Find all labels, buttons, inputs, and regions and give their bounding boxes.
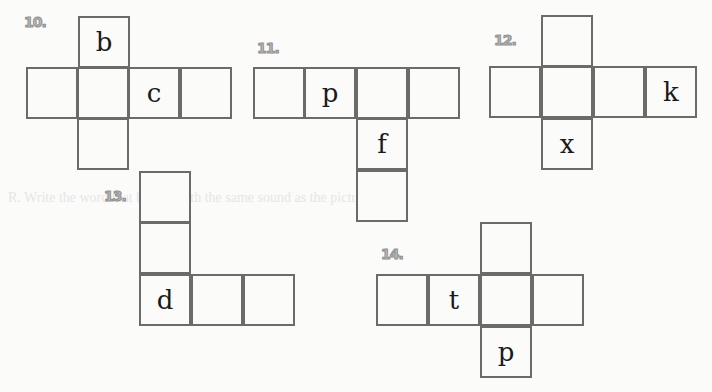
net-square [253, 67, 305, 119]
net-square: p [304, 67, 356, 119]
exercise-number: 11. [257, 40, 279, 56]
net-square [593, 66, 645, 118]
net-square [243, 274, 295, 326]
net-square [77, 118, 129, 170]
net-square: b [78, 16, 130, 68]
net-square [480, 222, 532, 274]
net-square: t [428, 274, 480, 326]
exercise-number: 14. [381, 246, 403, 262]
net-square: f [356, 118, 408, 170]
net-square [26, 67, 78, 119]
exercise-number: 12. [494, 32, 516, 48]
net-square [356, 170, 408, 222]
exercise-number: 10. [24, 14, 46, 30]
net-square [77, 67, 129, 119]
net-square [376, 274, 428, 326]
net-square: p [480, 326, 532, 378]
net-square [139, 222, 191, 274]
net-square [541, 66, 593, 118]
net-square: d [139, 274, 191, 326]
net-square [180, 67, 232, 119]
net-square: x [541, 118, 593, 170]
net-square [541, 15, 593, 67]
net-square [489, 66, 541, 118]
net-square [480, 274, 532, 326]
net-square [532, 274, 584, 326]
exercise-number: 13. [104, 188, 126, 204]
net-square [191, 274, 243, 326]
net-square [356, 67, 408, 119]
net-square: c [128, 67, 180, 119]
net-square [139, 171, 191, 223]
net-square: k [645, 66, 697, 118]
net-square [408, 67, 460, 119]
